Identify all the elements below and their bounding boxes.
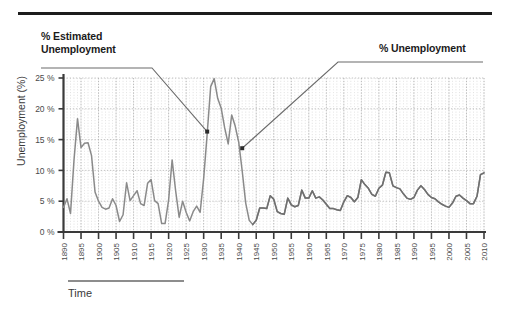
- svg-text:1895: 1895: [77, 242, 86, 260]
- svg-text:1975: 1975: [358, 242, 367, 260]
- svg-text:1955: 1955: [287, 242, 296, 260]
- unemployment-chart-figure: % Estimated Unemployment % Unemployment …: [0, 0, 506, 314]
- svg-text:10 %: 10 %: [35, 166, 55, 176]
- svg-text:5 %: 5 %: [40, 196, 55, 206]
- y-axis-tick-labels: 0 %5 %10 %15 %20 %25 %: [35, 73, 55, 237]
- svg-text:1890: 1890: [60, 242, 69, 260]
- svg-text:20 %: 20 %: [35, 104, 55, 114]
- svg-text:1940: 1940: [235, 242, 244, 260]
- svg-text:1915: 1915: [147, 242, 156, 260]
- svg-text:1910: 1910: [130, 242, 139, 260]
- svg-text:15 %: 15 %: [35, 135, 55, 145]
- svg-text:1930: 1930: [200, 242, 209, 260]
- svg-text:1965: 1965: [323, 242, 332, 260]
- x-axis-tick-labels: 1890189519001905191019151920192519301935…: [60, 242, 490, 260]
- svg-text:25 %: 25 %: [35, 73, 55, 83]
- svg-text:2010: 2010: [480, 242, 489, 260]
- svg-text:1945: 1945: [252, 242, 261, 260]
- svg-text:1995: 1995: [428, 242, 437, 260]
- svg-text:1970: 1970: [340, 242, 349, 260]
- svg-text:1990: 1990: [410, 242, 419, 260]
- svg-text:1935: 1935: [217, 242, 226, 260]
- svg-text:1950: 1950: [270, 242, 279, 260]
- plot-area: 0 %5 %10 %15 %20 %25 % 18901895190019051…: [0, 0, 506, 314]
- svg-text:1920: 1920: [165, 242, 174, 260]
- axis-lines: [58, 74, 487, 232]
- svg-text:2005: 2005: [463, 242, 472, 260]
- svg-text:1925: 1925: [182, 242, 191, 260]
- svg-text:1905: 1905: [112, 242, 121, 260]
- annotation-leader-lines: [41, 62, 483, 150]
- svg-text:0 %: 0 %: [40, 227, 55, 237]
- svg-text:1900: 1900: [95, 242, 104, 260]
- svg-text:2000: 2000: [445, 242, 454, 260]
- svg-text:1985: 1985: [393, 242, 402, 260]
- svg-text:1980: 1980: [375, 242, 384, 260]
- svg-text:1960: 1960: [305, 242, 314, 260]
